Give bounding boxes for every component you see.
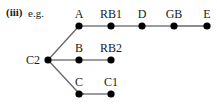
label-a: A [75, 7, 84, 21]
label-b: B [75, 41, 83, 55]
label-c: C [75, 75, 83, 89]
node-c [75, 90, 82, 97]
label-rb2: RB2 [100, 41, 122, 55]
labels: A RB1 D GB E C2 B RB2 C C1 [26, 7, 211, 89]
tree-diagram: (iii) e.g. A RB1 D GB E C2 B RB2 C C [0, 0, 217, 104]
node-d [138, 22, 145, 29]
label-e: E [203, 7, 210, 21]
example-prefix: e.g. [28, 7, 44, 19]
node-c2 [44, 56, 51, 63]
node-gb [170, 22, 177, 29]
edges [48, 26, 207, 94]
label-d: D [138, 7, 147, 21]
node-e [203, 22, 210, 29]
label-c1: C1 [104, 75, 118, 89]
section-marker: (iii) [6, 6, 23, 19]
label-rb1: RB1 [100, 7, 122, 21]
node-a [75, 22, 82, 29]
node-rb1 [107, 22, 114, 29]
node-b [75, 56, 82, 63]
node-c1 [107, 90, 114, 97]
node-rb2 [107, 56, 114, 63]
label-gb: GB [166, 7, 183, 21]
label-c2: C2 [26, 53, 40, 67]
